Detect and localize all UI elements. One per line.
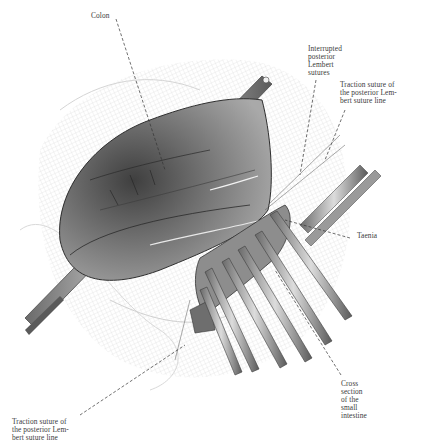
label-interrupted-posterior-lembert-sutures: Interrupted posterior Lembert sutures bbox=[308, 45, 342, 77]
label-traction-suture-bottom: Traction suture of the posterior Lem- be… bbox=[12, 418, 69, 442]
label-taenia: Taenia bbox=[357, 232, 377, 240]
label-traction-suture-top: Traction suture of the posterior Lem- be… bbox=[340, 81, 397, 105]
label-colon: Colon bbox=[91, 12, 110, 20]
label-cross-section-small-intestine: Cross section of the small intestine bbox=[341, 380, 367, 420]
